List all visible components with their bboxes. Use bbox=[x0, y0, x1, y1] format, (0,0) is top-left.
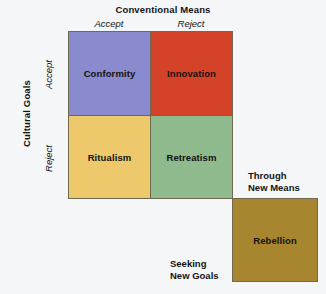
quadrant-conformity-label: Conformity bbox=[84, 68, 136, 79]
column-label-accept: Accept bbox=[68, 18, 150, 29]
strain-theory-diagram: Conventional Means Accept Reject Cultura… bbox=[0, 0, 326, 294]
note-seeking-new-goals-line1: Seeking bbox=[170, 258, 219, 270]
quadrant-ritualism: Ritualism bbox=[68, 115, 151, 199]
quadrant-innovation-label: Innovation bbox=[167, 68, 216, 79]
quadrant-rebellion-label: Rebellion bbox=[253, 235, 297, 246]
row-label-reject: Reject bbox=[43, 138, 54, 180]
quadrant-retreatism-label: Retreatism bbox=[166, 152, 216, 163]
row-axis-title: Cultural Goals bbox=[21, 69, 32, 159]
note-through-new-means-line1: Through bbox=[248, 170, 300, 182]
quadrant-conformity: Conformity bbox=[68, 31, 151, 116]
quadrant-ritualism-label: Ritualism bbox=[88, 152, 132, 163]
quadrant-retreatism: Retreatism bbox=[150, 115, 233, 199]
note-seeking-new-goals-line2: New Goals bbox=[170, 270, 219, 282]
quadrant-rebellion: Rebellion bbox=[232, 198, 318, 282]
row-label-accept: Accept bbox=[43, 54, 54, 96]
note-through-new-means-line2: New Means bbox=[248, 182, 300, 194]
column-label-reject: Reject bbox=[150, 18, 232, 29]
note-seeking-new-goals: Seeking New Goals bbox=[170, 258, 219, 281]
quadrant-innovation: Innovation bbox=[150, 31, 233, 116]
note-through-new-means: Through New Means bbox=[248, 170, 300, 193]
column-axis-title: Conventional Means bbox=[88, 4, 238, 15]
